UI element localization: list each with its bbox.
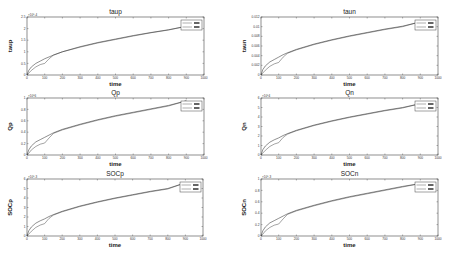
- y-axis-label: taun: [241, 39, 247, 52]
- y-tick-label: 1: [24, 225, 26, 229]
- x-tick-label: 900: [418, 76, 424, 80]
- legend: [181, 101, 202, 111]
- x-tick-label: 100: [42, 237, 48, 241]
- y-tick-label: 1.5: [21, 38, 26, 42]
- y-tick-label: 0.2: [21, 142, 26, 146]
- x-tick-label: 800: [400, 156, 406, 160]
- x-tick-label: 600: [131, 156, 137, 160]
- x-tick-label: 300: [311, 156, 317, 160]
- y-tick-label: 5: [24, 187, 26, 191]
- chart-title: Qn: [345, 89, 354, 97]
- x-tick-label: 800: [166, 156, 172, 160]
- y-axis-label: Qp: [7, 122, 13, 131]
- x-tick-label: 200: [294, 76, 300, 80]
- y-exponent-label: ×10^6: [28, 94, 36, 98]
- y-tick-label: 0.5: [21, 62, 26, 66]
- y-tick-label: 4: [258, 115, 260, 119]
- y-tick-label: 0.006: [252, 44, 260, 48]
- axes-frame: [27, 17, 204, 75]
- y-tick-label: 0.6: [21, 119, 26, 123]
- x-axis-label: time: [109, 242, 122, 248]
- y-tick-label: 0.4: [21, 130, 26, 134]
- x-tick-label: 0: [26, 156, 28, 160]
- x-tick-label: 200: [60, 76, 66, 80]
- x-tick-label: 1000: [199, 237, 206, 241]
- x-tick-label: 200: [294, 156, 300, 160]
- x-tick-label: 600: [365, 237, 371, 241]
- x-tick-label: 700: [382, 237, 388, 241]
- x-tick-label: 0: [260, 156, 262, 160]
- x-tick-label: 0: [26, 76, 28, 80]
- y-tick-label: 0.012: [252, 15, 260, 19]
- chart-title: taun: [343, 8, 356, 15]
- x-tick-label: 1000: [434, 237, 441, 241]
- y-exponent-label: ×10^-3: [28, 175, 37, 179]
- legend: [181, 20, 202, 30]
- x-tick-label: 800: [400, 237, 406, 241]
- x-tick-label: 700: [148, 237, 154, 241]
- chart-qp: 0100200300400500600700800900100000.20.40…: [27, 98, 204, 155]
- x-tick-label: 400: [329, 76, 335, 80]
- x-tick-label: 300: [311, 237, 317, 241]
- y-tick-label: 4: [24, 196, 26, 200]
- x-tick-label: 900: [184, 76, 190, 80]
- y-tick-label: 0: [258, 153, 260, 157]
- x-tick-label: 600: [131, 76, 137, 80]
- y-tick-label: 0: [258, 73, 260, 77]
- x-axis-label: time: [109, 161, 122, 167]
- axes-frame: [261, 98, 438, 155]
- x-tick-label: 100: [276, 156, 282, 160]
- x-tick-label: 700: [382, 156, 388, 160]
- y-tick-label: 6: [24, 177, 26, 181]
- axes-frame: [27, 179, 203, 236]
- y-tick-label: 0.01: [253, 25, 259, 29]
- y-tick-label: 0: [24, 73, 26, 77]
- y-tick-label: 0.2: [255, 223, 260, 227]
- chart-title: SOCp: [106, 170, 124, 178]
- axes-frame: [261, 179, 438, 236]
- y-tick-label: 1: [24, 50, 26, 54]
- x-tick-label: 300: [311, 76, 317, 80]
- x-axis-label: time: [109, 81, 122, 87]
- y-tick-label: 0.004: [252, 54, 260, 58]
- x-tick-label: 100: [276, 76, 282, 80]
- x-tick-label: 100: [42, 156, 48, 160]
- x-tick-label: 400: [329, 156, 335, 160]
- y-tick-label: 0: [258, 234, 260, 238]
- x-tick-label: 900: [418, 237, 424, 241]
- chart-socn: 0100200300400500600700800900100000.20.40…: [261, 179, 438, 236]
- x-tick-label: 900: [418, 156, 424, 160]
- y-tick-label: 0.8: [21, 108, 26, 112]
- y-tick-label: 1: [24, 96, 26, 100]
- y-exponent-label: ×10^-4: [28, 13, 37, 17]
- y-tick-label: 3: [24, 206, 26, 210]
- x-tick-label: 200: [60, 237, 66, 241]
- y-tick-label: 0.4: [255, 211, 260, 215]
- chart-title: SOCn: [341, 170, 359, 177]
- y-tick-label: 1: [258, 177, 260, 181]
- y-tick-label: 5: [258, 106, 260, 110]
- y-exponent-label: ×10^4: [262, 94, 270, 98]
- chart-title: taup: [109, 8, 122, 16]
- y-exponent-label: ×10^-3: [262, 175, 271, 179]
- y-axis-label: SOCp: [7, 199, 13, 216]
- x-tick-label: 900: [184, 156, 190, 160]
- x-tick-label: 700: [382, 76, 388, 80]
- chart-qn: 010020030040050060070080090010000123456×…: [261, 98, 438, 155]
- legend: [415, 20, 436, 30]
- y-tick-label: 0: [24, 234, 26, 238]
- x-tick-label: 300: [77, 156, 83, 160]
- y-tick-label: 1: [258, 144, 260, 148]
- axes-frame: [27, 98, 204, 155]
- y-tick-label: 2: [258, 134, 260, 138]
- axes-frame: [261, 17, 438, 75]
- x-axis-label: time: [343, 242, 356, 248]
- y-tick-label: 0.8: [255, 189, 260, 193]
- y-tick-label: 0.6: [255, 200, 260, 204]
- y-tick-label: 0.008: [252, 34, 260, 38]
- x-tick-label: 800: [165, 237, 171, 241]
- x-tick-label: 400: [95, 237, 101, 241]
- x-tick-label: 400: [95, 156, 101, 160]
- x-tick-label: 200: [60, 156, 66, 160]
- x-tick-label: 400: [329, 237, 335, 241]
